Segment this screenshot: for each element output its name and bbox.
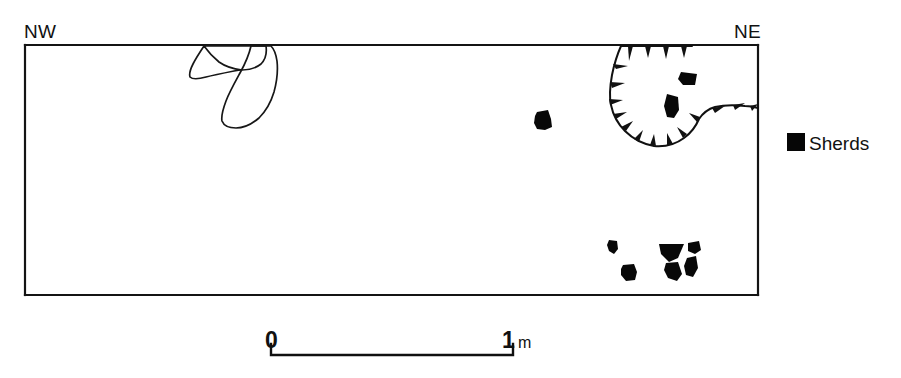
sherd-isolated-centre bbox=[534, 110, 552, 130]
legend: Sherds bbox=[787, 133, 869, 154]
irregular-feature-nw-right bbox=[222, 46, 278, 128]
orientation-label-nw: NW bbox=[24, 21, 56, 42]
legend-sherd-label: Sherds bbox=[809, 133, 869, 154]
plan-drawing-canvas: NW NE bbox=[0, 0, 901, 378]
sherd-scatter-3 bbox=[659, 244, 684, 262]
sherds-in-pit bbox=[664, 72, 697, 118]
excavation-trench-outline bbox=[25, 45, 758, 295]
sherd-scatter-1 bbox=[607, 240, 618, 254]
scale-end-unit: m bbox=[518, 334, 531, 351]
sherd-scatter-6 bbox=[688, 241, 701, 254]
orientation-label-ne: NE bbox=[734, 21, 761, 42]
sherds-south-scatter bbox=[607, 240, 701, 281]
legend-sherd-swatch bbox=[787, 133, 805, 151]
scale-bar-rule bbox=[271, 344, 513, 355]
irregular-feature-nw-left bbox=[190, 46, 267, 79]
excavation-plan-figure: NW NE bbox=[0, 0, 901, 378]
sherd-pit-upper bbox=[678, 72, 697, 85]
pit-cut-ne bbox=[609, 46, 758, 146]
sherd-pit-lower bbox=[664, 94, 679, 118]
sherd-scatter-2 bbox=[621, 264, 637, 281]
sherd-scatter-5 bbox=[684, 256, 698, 277]
sherd-scatter-4 bbox=[664, 262, 682, 281]
scale-bar: 0 1 m bbox=[265, 327, 531, 355]
pit-hachure-marks bbox=[609, 46, 758, 146]
